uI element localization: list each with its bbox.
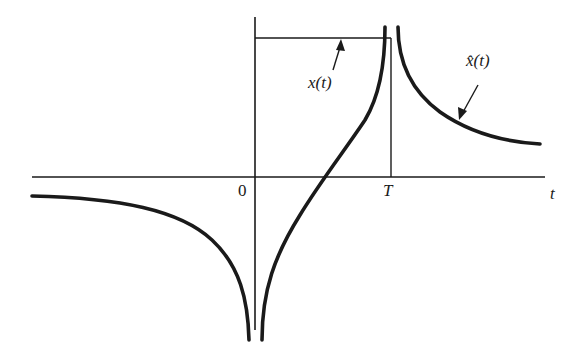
- t-axis-label: t: [550, 185, 555, 202]
- xhat-left-branch: [32, 196, 249, 340]
- xhat-right-branch: [398, 27, 540, 144]
- T-label: T: [383, 182, 392, 199]
- xhat-label-arrow: [458, 85, 478, 120]
- origin-label: 0: [238, 182, 247, 199]
- x-label-arrow: [333, 39, 345, 70]
- x-label: x(t): [308, 74, 332, 91]
- xhat-label: x̂(t): [466, 52, 490, 69]
